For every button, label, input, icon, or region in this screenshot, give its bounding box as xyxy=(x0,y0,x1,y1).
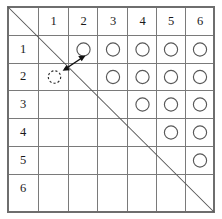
matrix-figure: 1 2 3 4 5 6 1 2 3 4 5 6 xyxy=(0,0,222,219)
column-header-6: 6 xyxy=(197,14,203,28)
marker-circle-r3c6 xyxy=(193,98,206,111)
marker-circle-r2c3 xyxy=(106,70,119,83)
column-header-2: 2 xyxy=(80,14,86,28)
row-header-6: 6 xyxy=(20,181,26,195)
grid-vertical-lines xyxy=(39,7,186,212)
marker-circle-r2c6 xyxy=(193,70,206,83)
row-header-2: 2 xyxy=(20,69,26,83)
marker-circle-r3c4 xyxy=(136,98,149,111)
marker-circle-r4c6 xyxy=(193,126,206,139)
marker-circle-r2c5 xyxy=(164,70,177,83)
marker-circle-r1c6 xyxy=(193,43,206,56)
marker-circle-r5c6 xyxy=(193,154,206,167)
row-header-4: 4 xyxy=(20,125,27,139)
row-header-3: 3 xyxy=(20,97,26,111)
marker-circle-r1c3 xyxy=(106,43,119,56)
column-header-1: 1 xyxy=(50,14,56,28)
row-header-5: 5 xyxy=(20,153,26,167)
column-headers: 1 2 3 4 5 6 xyxy=(50,14,203,28)
column-header-5: 5 xyxy=(168,14,174,28)
column-header-3: 3 xyxy=(110,14,116,28)
matrix-grid-canvas: 1 2 3 4 5 6 1 2 3 4 5 6 xyxy=(0,0,222,219)
row-header-1: 1 xyxy=(20,42,26,56)
marker-circle-r3c5 xyxy=(164,98,177,111)
marker-circle-r4c5 xyxy=(164,126,177,139)
marker-circle-r1c2 xyxy=(77,43,90,56)
column-header-4: 4 xyxy=(139,14,146,28)
marker-circle-r1c5 xyxy=(164,43,177,56)
marker-circle-r2c4 xyxy=(136,70,149,83)
marker-circle-r1c4 xyxy=(136,43,149,56)
marker-circle-dashed-r2c1 xyxy=(48,71,60,83)
